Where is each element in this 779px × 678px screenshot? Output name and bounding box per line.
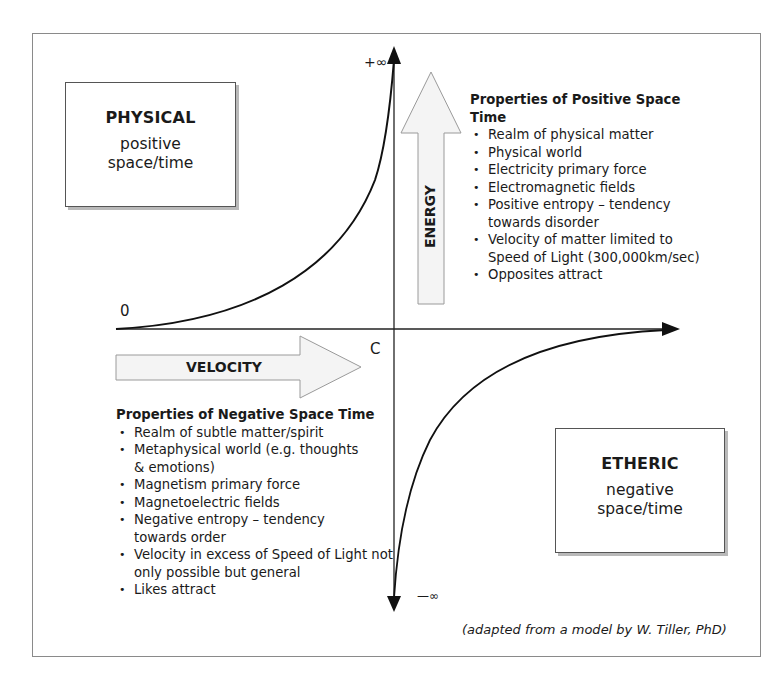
negative-property-item: Velocity in excess of Speed of Light not… — [116, 546, 394, 581]
energy-label: ENERGY — [422, 128, 438, 248]
negative-property-item: Realm of subtle matter/spirit — [116, 424, 381, 442]
positive-property-item: Realm of physical matter — [470, 126, 710, 144]
positive-property-item: Physical world — [470, 144, 710, 162]
positive-properties-heading: Properties of Positive Space Time — [470, 91, 710, 126]
negative-property-item: Negative entropy – tendency towards orde… — [116, 511, 334, 546]
c-label: C — [370, 340, 380, 358]
physical-line1: positive — [66, 135, 235, 154]
negative-property-item: Magnetism primary force — [116, 476, 381, 494]
positive-property-item: Electricity primary force — [470, 161, 710, 179]
positive-property-item: Positive entropy – tendency towards diso… — [470, 196, 678, 231]
positive-property-item: Velocity of matter limited to Speed of L… — [470, 231, 716, 266]
credit-text: (adapted from a model by W. Tiller, PhD) — [462, 622, 727, 637]
etheric-title: ETHERIC — [556, 454, 724, 473]
down-arrowhead-icon — [387, 596, 401, 612]
negative-properties-heading: Properties of Negative Space Time — [116, 406, 381, 424]
physical-title: PHYSICAL — [66, 108, 235, 127]
etheric-line2: space/time — [556, 500, 724, 519]
positive-property-item: Opposites attract — [470, 266, 710, 284]
negative-property-item: Metaphysical world (e.g. thoughts & emot… — [116, 441, 364, 476]
physical-box: PHYSICAL positive space/time — [65, 82, 236, 207]
plus-infinity-label: +∞ — [364, 54, 387, 70]
physical-line2: space/time — [66, 154, 235, 173]
etheric-line1: negative — [556, 481, 724, 500]
velocity-label: VELOCITY — [186, 359, 262, 375]
minus-infinity-label: —∞ — [417, 589, 439, 603]
negative-property-item: Likes attract — [116, 581, 381, 599]
etheric-box: ETHERIC negative space/time — [555, 428, 725, 553]
positive-property-item: Electromagnetic fields — [470, 179, 710, 197]
negative-properties: Properties of Negative Space Time Realm … — [116, 406, 381, 599]
positive-properties: Properties of Positive Space Time Realm … — [470, 91, 710, 284]
right-arrowhead-icon — [662, 322, 680, 336]
negative-property-item: Magnetoelectric fields — [116, 494, 381, 512]
origin-label: 0 — [120, 302, 130, 320]
